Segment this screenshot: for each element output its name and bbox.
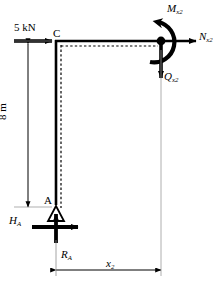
support-a-label: A — [44, 195, 52, 206]
joint-c-label: C — [53, 28, 60, 39]
caption-clipped — [0, 277, 224, 283]
reaction-horizontal-subscript: A — [17, 220, 21, 227]
diagram-svg — [0, 0, 224, 283]
dimension-length-label: x2 — [106, 258, 114, 270]
reaction-horizontal-symbol: H — [9, 214, 17, 226]
reaction-vertical-subscript: A — [68, 254, 72, 261]
applied-load-label: 5 kN — [14, 22, 36, 33]
normal-force-subscript: x2 — [206, 36, 212, 43]
reaction-vertical-label: RA — [61, 249, 72, 261]
dimension-length-subscript: 2 — [111, 263, 114, 270]
dimension-height-label: 8 m — [0, 103, 8, 120]
moment-symbol: M — [167, 2, 176, 14]
moment-label: Mx2 — [167, 3, 183, 15]
figure-canvas: 5 kN C A 8 m HA RA x2 Mx2 Nx2 Qx2 — [0, 0, 224, 283]
shear-force-subscript: x2 — [172, 76, 178, 83]
normal-force-label: Nx2 — [199, 31, 213, 43]
reaction-vertical-symbol: R — [61, 248, 68, 260]
shear-force-label: Qx2 — [164, 71, 178, 83]
moment-subscript: x2 — [176, 8, 182, 15]
shear-force-symbol: Q — [164, 70, 172, 82]
reaction-horizontal-label: HA — [9, 215, 21, 227]
